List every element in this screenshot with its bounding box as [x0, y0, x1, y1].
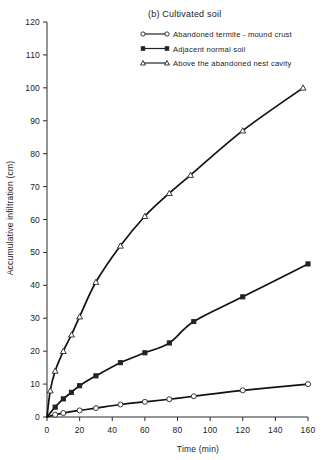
x-tick-label: 160: [301, 425, 316, 435]
data-curves-group: [47, 88, 308, 417]
y-tick-label: 20: [30, 346, 40, 356]
x-tick-label: 140: [268, 425, 283, 435]
data-point-marker: [241, 295, 245, 299]
data-point-marker: [61, 397, 65, 401]
y-tick-label: 30: [30, 313, 40, 323]
data-point-marker: [192, 319, 196, 323]
x-tick-label: 0: [45, 425, 50, 435]
y-tick-label: 60: [30, 215, 40, 225]
y-tick-label: 10: [30, 379, 40, 389]
data-point-marker: [77, 408, 82, 413]
series-line: [47, 88, 303, 417]
series-line: [47, 384, 308, 417]
data-point-marker: [240, 388, 245, 393]
data-point-marker: [143, 351, 147, 355]
chart-legend: Abandoned termite - mound crustAdjacent …: [141, 30, 293, 68]
y-tick-label: 110: [26, 50, 40, 60]
data-point-marker: [53, 405, 57, 409]
x-tick-label: 20: [75, 425, 85, 435]
data-point-marker: [60, 348, 66, 353]
x-tick-label: 60: [140, 425, 150, 435]
y-tick-label: 40: [30, 280, 40, 290]
open-triangle-marker: [165, 61, 170, 65]
data-point-marker: [53, 412, 58, 417]
data-point-marker: [118, 361, 122, 365]
data-point-marker: [61, 411, 66, 416]
data-point-marker: [77, 314, 83, 319]
filled-square-marker: [165, 47, 169, 51]
open-triangle-marker: [141, 61, 146, 65]
data-point-marker: [306, 262, 310, 266]
legend-entry-label: Abandoned termite - mound crust: [173, 30, 293, 39]
y-tick-label: 70: [30, 182, 40, 192]
data-point-marker: [167, 341, 171, 345]
data-point-marker: [167, 397, 172, 402]
data-point-marker: [94, 374, 98, 378]
legend-entry-label: Above the abandoned nest cavity: [173, 59, 292, 68]
chart-title: (b) Cultivated soil: [148, 9, 221, 19]
tick-labels-group: 0102030405060708090100110120020406080100…: [25, 17, 315, 435]
data-point-marker: [47, 388, 53, 393]
filled-square-marker: [141, 47, 145, 51]
x-tick-label: 100: [203, 425, 218, 435]
x-tick-label: 120: [235, 425, 250, 435]
open-circle-marker: [165, 32, 169, 36]
y-tick-label: 0: [35, 412, 40, 422]
data-point-marker: [93, 406, 98, 411]
y-tick-label: 50: [30, 247, 40, 257]
y-axis-label: Accumulative infiltration (cm): [5, 161, 15, 276]
legend-entry-label: Adjacent normal soil: [173, 45, 245, 54]
series-line: [47, 264, 308, 417]
y-tick-label: 100: [25, 83, 40, 93]
infiltration-chart-figure: 0102030405060708090100110120020406080100…: [0, 0, 325, 460]
chart-svg: 0102030405060708090100110120020406080100…: [0, 0, 325, 460]
data-point-marker: [69, 332, 75, 337]
data-point-marker: [191, 394, 196, 399]
x-tick-label: 40: [107, 425, 117, 435]
y-tick-label: 90: [30, 116, 40, 126]
data-point-marker: [69, 390, 73, 394]
data-point-marker: [300, 85, 306, 90]
data-markers-group: [47, 85, 310, 417]
open-circle-marker: [141, 32, 145, 36]
y-tick-label: 120: [25, 17, 40, 27]
x-axis-label: Time (min): [177, 444, 219, 454]
data-point-marker: [306, 382, 311, 387]
axes-group: [43, 22, 308, 421]
y-tick-label: 80: [30, 149, 40, 159]
data-point-marker: [142, 399, 147, 404]
data-point-marker: [52, 368, 58, 373]
x-tick-label: 80: [173, 425, 183, 435]
data-point-marker: [118, 402, 123, 407]
data-point-marker: [78, 384, 82, 388]
